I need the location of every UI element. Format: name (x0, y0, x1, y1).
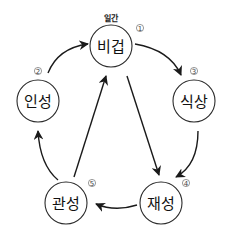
node-gwanseong: 관성 5 (45, 179, 96, 224)
node-bigeop: 비겁 1 (90, 24, 144, 67)
node-label: 식상 (180, 93, 208, 111)
node-label: 관성 (52, 195, 80, 213)
node-label: 비겁 (97, 38, 125, 56)
node-jaeseong: 재성 4 (140, 179, 190, 224)
svg-text:4: 4 (184, 180, 189, 188)
arrow-gwanseong-to-bigeop (74, 76, 106, 177)
node-siksang: 식상 3 (173, 67, 215, 122)
five-element-cycle-diagram: 일간 비겁 1 인성 2 식상 3 재성 4 관성 5 (0, 0, 231, 242)
arrow-jaeseong-to-gwanseong (96, 204, 137, 208)
arrow-inseong-to-bigeop (48, 44, 88, 73)
arrow-bigeop-to-siksang (135, 44, 181, 75)
svg-text:3: 3 (192, 68, 196, 76)
svg-text:1: 1 (138, 25, 142, 33)
svg-text:2: 2 (36, 68, 40, 76)
arrow-bigeop-to-jaeseong (127, 76, 159, 175)
arrow-siksang-to-jaeseong (176, 131, 198, 177)
node-label: 재성 (147, 195, 175, 213)
svg-text:5: 5 (90, 180, 94, 188)
arrow-gwanseong-to-inseong (38, 131, 58, 180)
node-label: 인성 (24, 93, 52, 111)
node-inseong: 인성 2 (17, 67, 59, 122)
day-master-label: 일간 (104, 13, 119, 23)
